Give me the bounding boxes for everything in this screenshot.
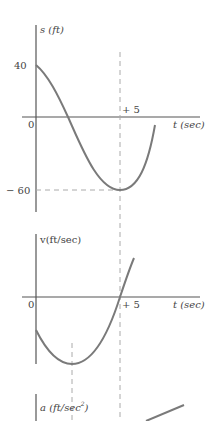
v-plus5-label: + 5 (122, 299, 140, 310)
v-time-label: t (sec) (173, 299, 205, 310)
v-axis-label: v(ft/sec) (39, 234, 81, 245)
velocity-graph: v(ft/sec) 0 + 5 t (sec) (22, 234, 205, 421)
motion-graphs: s (ft) 40 0 − 60 + 5 t (sec) v(ft/sec) 0… (0, 0, 216, 421)
acceleration-line (146, 405, 184, 421)
v-tick-0: 0 (28, 299, 34, 310)
s-axis-label: s (ft) (40, 24, 64, 35)
acceleration-graph: a (ft/sec2) (36, 394, 184, 421)
velocity-curve (36, 258, 134, 364)
s-tick-neg60: − 60 (6, 185, 30, 196)
s-time-label: t (sec) (173, 119, 205, 130)
a-axis-label: a (ft/sec2) (40, 400, 89, 413)
s-tick-40: 40 (14, 60, 27, 71)
s-tick-0: 0 (28, 119, 34, 130)
position-curve (36, 65, 155, 190)
s-plus5-label: + 5 (122, 104, 140, 115)
